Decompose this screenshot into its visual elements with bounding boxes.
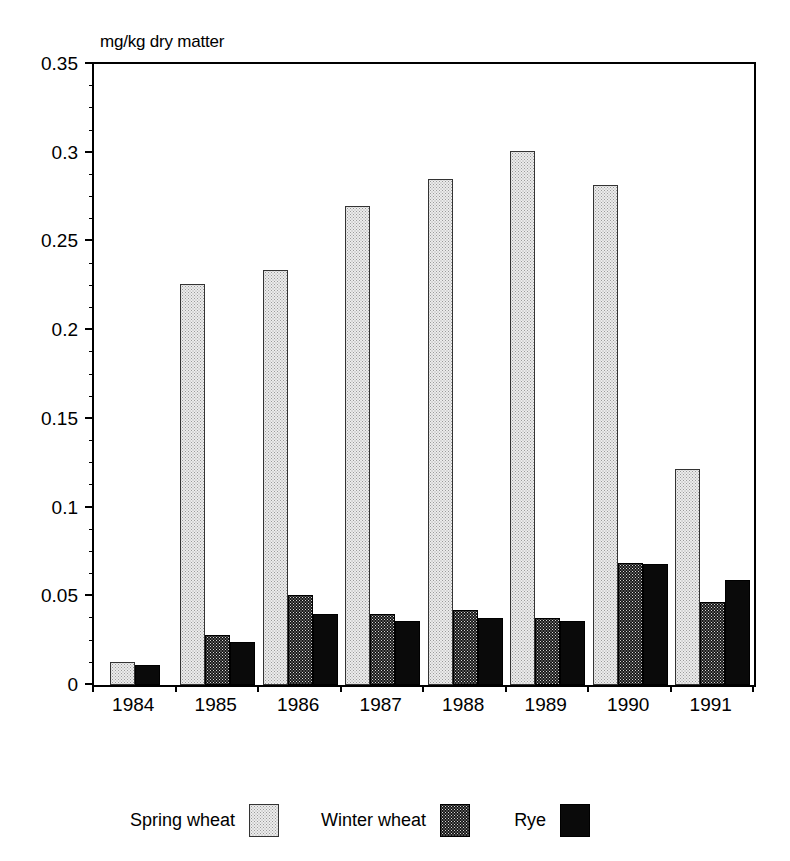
bar-1984-series-3 xyxy=(135,665,160,685)
bar-1990-series-2 xyxy=(618,563,643,685)
bar-group-1985 xyxy=(177,64,260,685)
x-axis-tick xyxy=(92,685,94,692)
y-axis-tick-major xyxy=(85,151,94,153)
light-stipple-swatch xyxy=(249,804,279,837)
x-axis-label-1984: 1984 xyxy=(112,694,154,716)
bar-1987-series-3 xyxy=(395,621,420,685)
y-axis-tick-major xyxy=(85,506,94,508)
y-axis-tick-label: 0.25 xyxy=(41,230,78,252)
bar-1985-series-2 xyxy=(205,635,230,685)
y-axis-tick-major xyxy=(85,239,94,241)
x-axis-label-1991: 1991 xyxy=(690,694,732,716)
legend-entry-winter-wheat: Winter wheat xyxy=(321,804,470,837)
legend-entry-spring-wheat: Spring wheat xyxy=(130,804,279,837)
bar-1987-series-2 xyxy=(370,614,395,685)
bar-1991-series-2 xyxy=(700,602,725,685)
bar-1985-series-3 xyxy=(230,642,255,685)
x-axis-label-1988: 1988 xyxy=(442,694,484,716)
plot-area: 00.050.10.150.20.250.30.35 xyxy=(92,62,756,687)
y-axis-unit-caption: mg/kg dry matter xyxy=(100,32,224,52)
bar-1986-series-3 xyxy=(313,614,338,685)
bar-1989-series-2 xyxy=(535,618,560,685)
chart-legend: Spring wheatWinter wheatRye xyxy=(130,800,790,840)
y-axis-tick-label: 0 xyxy=(67,674,78,696)
bar-group-1984 xyxy=(94,64,177,685)
y-axis-tick-label: 0.1 xyxy=(52,497,78,519)
bar-group-1991 xyxy=(672,64,755,685)
solid-black-swatch xyxy=(560,804,590,837)
x-axis-tick xyxy=(340,685,342,692)
legend-entry-rye: Rye xyxy=(514,804,590,837)
y-axis-tick-label: 0.05 xyxy=(41,585,78,607)
bar-1991-series-1 xyxy=(675,469,700,685)
bar-1988-series-2 xyxy=(453,610,478,685)
x-axis-label-1990: 1990 xyxy=(607,694,649,716)
bar-group-1990 xyxy=(589,64,672,685)
y-axis-tick-major xyxy=(85,328,94,330)
bar-1986-series-1 xyxy=(263,270,288,685)
x-axis-label-1989: 1989 xyxy=(525,694,567,716)
bar-group-1988 xyxy=(424,64,507,685)
legend-label: Winter wheat xyxy=(321,810,426,831)
bar-1990-series-1 xyxy=(593,185,618,685)
x-axis-tick xyxy=(587,685,589,692)
y-axis-tick-label: 0.2 xyxy=(52,319,78,341)
bar-1984-series-0 xyxy=(110,662,135,685)
bar-chart-figure: mg/kg dry matter 00.050.10.150.20.250.30… xyxy=(0,0,790,861)
x-axis-tick xyxy=(422,685,424,692)
bar-1989-series-3 xyxy=(560,621,585,685)
y-axis-tick-major xyxy=(85,594,94,596)
bar-group-1989 xyxy=(507,64,590,685)
bar-1985-series-1 xyxy=(180,284,205,685)
y-axis-tick-label: 0.15 xyxy=(41,408,78,430)
bar-1988-series-3 xyxy=(478,618,503,685)
legend-label: Spring wheat xyxy=(130,810,235,831)
bar-series-container xyxy=(94,64,754,685)
bar-1989-series-1 xyxy=(510,151,535,685)
x-axis-label-1986: 1986 xyxy=(277,694,319,716)
x-axis-labels: 19841985198619871988198919901991 xyxy=(92,694,754,722)
legend-label: Rye xyxy=(514,810,546,831)
dark-stipple-swatch xyxy=(440,804,470,837)
bar-group-1987 xyxy=(342,64,425,685)
y-axis-tick-label: 0.35 xyxy=(41,53,78,75)
x-axis-tick xyxy=(505,685,507,692)
x-axis-tick xyxy=(670,685,672,692)
x-axis-label-1987: 1987 xyxy=(360,694,402,716)
x-axis-label-1985: 1985 xyxy=(195,694,237,716)
bar-1987-series-1 xyxy=(345,206,370,685)
x-axis-tick xyxy=(257,685,259,692)
y-axis-tick-major xyxy=(85,62,94,64)
y-axis-tick-major xyxy=(85,417,94,419)
y-axis-tick-label: 0.3 xyxy=(52,142,78,164)
x-axis-tick xyxy=(752,685,754,692)
bar-1991-series-3 xyxy=(725,580,750,685)
x-axis-ticks xyxy=(92,685,754,693)
bar-1988-series-1 xyxy=(428,179,453,685)
x-axis-tick xyxy=(175,685,177,692)
bar-group-1986 xyxy=(259,64,342,685)
bar-1986-series-2 xyxy=(288,595,313,685)
bar-1990-series-3 xyxy=(643,564,668,685)
